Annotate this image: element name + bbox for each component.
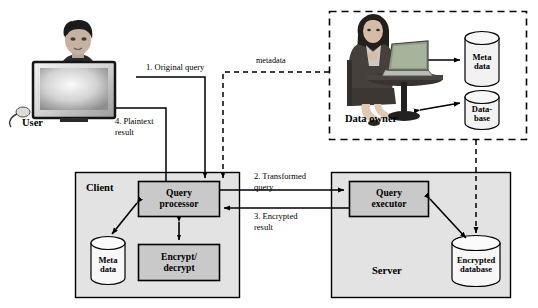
user-label: User (22, 117, 43, 129)
data-owner-label: Data owner (345, 113, 397, 125)
component-query-processor-text: Query processor (160, 188, 199, 210)
component-encrypt-decrypt-text: Encrypt/ decrypt (161, 252, 197, 274)
diagram-canvas: User Data owner metadata 1. Original que… (0, 0, 538, 308)
diagram-vector-layer (0, 0, 538, 308)
step4-label-line1: 4. Plaintext (115, 117, 154, 127)
datastore-server-encrypted-database[interactable] (452, 236, 500, 287)
user-figure-icon (10, 20, 115, 127)
zone-server-label: Server (372, 265, 402, 277)
zone-client-label: Client (86, 182, 113, 194)
component-query-executor-text: Query executor (372, 188, 407, 210)
arrow-step1-original-query (136, 77, 205, 178)
step2-label-line2: query (254, 183, 273, 193)
component-query-executor-label: Query executor (349, 181, 429, 217)
step3-label-line1: 3. Encrypted (254, 212, 297, 222)
arrow-metadata-dashed (223, 72, 329, 178)
step2-label-line1: 2. Transformed (254, 172, 306, 182)
datastore-client-meta-data[interactable] (91, 237, 125, 285)
component-query-processor-label: Query processor (138, 181, 220, 217)
step3-label-line2: result (254, 223, 273, 233)
step1-label: 1. Original query (146, 63, 204, 73)
datastore-owner-database[interactable] (465, 91, 499, 130)
metadata-edge-label: metadata (256, 56, 286, 65)
step4-label-line2: result (115, 128, 134, 138)
datastore-owner-meta-data[interactable] (465, 32, 499, 87)
component-encrypt-decrypt-label: Encrypt/ decrypt (138, 244, 220, 281)
